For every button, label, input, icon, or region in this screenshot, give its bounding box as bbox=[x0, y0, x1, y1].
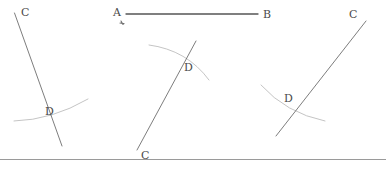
label-c-right: C bbox=[349, 9, 357, 20]
arc-right bbox=[261, 85, 325, 121]
label-c-middle: C bbox=[141, 150, 149, 161]
label-b: B bbox=[263, 9, 271, 20]
label-d-left: D bbox=[45, 106, 54, 117]
figure-left bbox=[14, 13, 88, 146]
diagram-canvas: C D C D C D A B bbox=[0, 0, 386, 171]
label-a: A bbox=[113, 7, 121, 18]
figure-right bbox=[261, 21, 366, 136]
ray-right bbox=[276, 21, 366, 136]
construction-tick-icon bbox=[120, 21, 124, 25]
segment-ab-group bbox=[120, 14, 258, 25]
arc-middle bbox=[149, 45, 209, 80]
label-d-right: D bbox=[284, 93, 293, 104]
figure-middle bbox=[137, 41, 209, 150]
label-d-middle: D bbox=[184, 62, 193, 73]
geometry-figure-svg bbox=[0, 0, 386, 171]
ray-middle bbox=[137, 41, 196, 150]
label-c-left: C bbox=[21, 7, 29, 18]
ray-left bbox=[15, 13, 63, 146]
